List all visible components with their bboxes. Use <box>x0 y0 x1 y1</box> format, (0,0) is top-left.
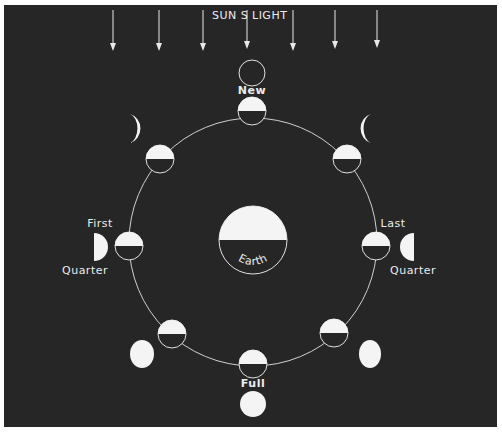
waxing-gibbous-appearance-icon <box>130 340 154 368</box>
waning-gibbous-appearance-icon <box>359 340 381 368</box>
label-last: Last <box>381 217 406 230</box>
orbit-moon-waxing-gibbous <box>158 320 186 348</box>
label-new: New <box>238 84 266 97</box>
orbit-moon-full <box>239 350 267 378</box>
label-first-quarter: Quarter <box>62 264 108 277</box>
label-full: Full <box>241 377 265 390</box>
title-light: LIGHT <box>252 9 287 22</box>
earth: Earth <box>219 206 287 274</box>
label-last-quarter: Quarter <box>390 264 436 277</box>
first-quarter-appearance-icon <box>94 233 108 261</box>
label-first: First <box>87 217 113 230</box>
orbit-moon-last-quarter <box>362 232 390 260</box>
last-quarter-appearance-icon <box>400 233 414 261</box>
orbit-moon-waning-gibbous <box>320 319 348 347</box>
waxing-crescent-appearance-icon <box>130 114 140 143</box>
orbit-moon-waxing-crescent <box>146 145 174 173</box>
new-moon-appearance-icon <box>239 60 265 86</box>
waning-crescent-appearance-icon <box>361 114 371 143</box>
full-moon-appearance-icon <box>240 391 266 417</box>
orbit-moon-new <box>238 97 266 125</box>
orbit-moon-waning-crescent <box>333 145 361 173</box>
orbit-moon-first-quarter <box>115 232 143 260</box>
moon-phases-diagram: SUN S LIGHT Earth <box>0 0 502 432</box>
title-sun: SUN S <box>212 9 248 22</box>
